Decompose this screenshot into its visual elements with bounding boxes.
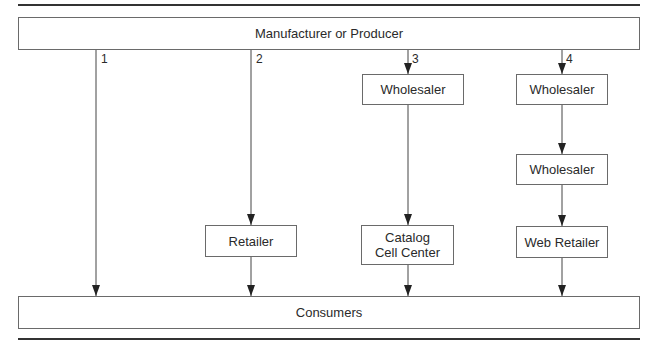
catalog-cell-center-box: Catalog Cell Center [361,225,454,265]
wholesaler-box-channel-4b: Wholesaler [516,154,608,185]
arrowhead-icon [404,63,412,74]
retailer-box: Retailer [205,225,297,257]
consumers-label: Consumers [296,305,362,320]
manufacturer-label: Manufacturer or Producer [255,26,403,41]
arrowhead-icon [558,215,566,226]
wholesaler-label: Wholesaler [380,82,445,97]
consumers-box: Consumers [18,296,640,329]
arrowhead-icon [247,285,255,296]
web-retailer-box: Web Retailer [516,226,608,258]
web-retailer-label: Web Retailer [525,235,600,250]
retailer-label: Retailer [229,234,274,249]
arrowhead-icon [558,285,566,296]
arrowhead-icon [404,285,412,296]
wholesaler-box-channel-3: Wholesaler [362,74,464,105]
arrowhead-icon [558,63,566,74]
arrowhead-icon [404,214,412,225]
channel-2-number: 2 [256,52,263,66]
manufacturer-box: Manufacturer or Producer [18,17,640,50]
channel-4-number: 4 [566,52,573,66]
catalog-cell-center-label: Catalog Cell Center [374,230,441,260]
wholesaler-label: Wholesaler [529,162,594,177]
wholesaler-label: Wholesaler [529,82,594,97]
channel-1-number: 1 [101,52,108,66]
arrowhead-icon [247,214,255,225]
wholesaler-box-channel-4a: Wholesaler [516,74,608,105]
channel-3-number: 3 [412,52,419,66]
arrowhead-icon [558,143,566,154]
arrowhead-icon [92,285,100,296]
